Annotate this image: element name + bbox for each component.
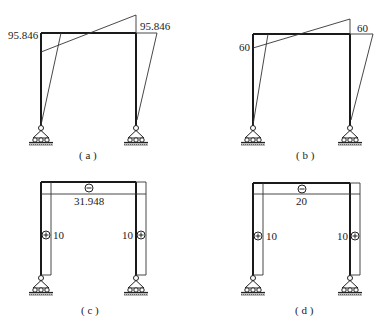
panel-caption: ( b ) xyxy=(296,149,315,162)
panel-b: 60 60 ( b ) xyxy=(239,19,373,162)
panel-caption: ( a ) xyxy=(79,149,97,162)
frame-structure xyxy=(41,33,136,126)
plus-sign-icon xyxy=(42,231,50,239)
panel-caption: ( d ) xyxy=(295,304,314,317)
moment-label-right: 60 xyxy=(357,22,369,34)
pin-support-icon xyxy=(241,276,265,297)
minus-sign-icon xyxy=(298,185,306,193)
pin-support-icon xyxy=(338,126,362,147)
axial-label-left-column: 10 xyxy=(53,229,65,241)
axial-label-left-column: 10 xyxy=(266,230,278,242)
frame-diagrams: 95.846 95.846 ( a ) 60 60 ( b ) xyxy=(0,0,378,326)
pin-support-icon xyxy=(124,276,148,297)
panel-d: 20 10 10 ( d ) xyxy=(241,183,362,317)
moment-label-left: 60 xyxy=(239,41,251,53)
pin-support-icon xyxy=(241,126,265,147)
panel-a: 95.846 95.846 ( a ) xyxy=(8,15,171,162)
panel-caption: ( c ) xyxy=(81,304,99,317)
minus-sign-icon xyxy=(85,184,93,192)
plus-sign-icon xyxy=(254,232,262,240)
axial-label-right-column: 10 xyxy=(122,229,134,241)
pin-support-icon xyxy=(338,276,362,297)
pin-support-icon xyxy=(124,126,148,147)
plus-sign-icon xyxy=(351,232,359,240)
pin-support-icon xyxy=(29,126,53,147)
pin-support-icon xyxy=(29,276,53,297)
moment-label-left: 95.846 xyxy=(8,29,39,41)
panel-c: 31.948 10 10 ( c ) xyxy=(29,182,148,317)
moment-label-right: 95.846 xyxy=(140,20,171,32)
plus-sign-icon xyxy=(137,231,145,239)
axial-label-beam: 20 xyxy=(296,195,308,207)
axial-label-beam: 31.948 xyxy=(74,195,105,207)
axial-label-right-column: 10 xyxy=(337,230,349,242)
frame-structure xyxy=(253,34,350,126)
